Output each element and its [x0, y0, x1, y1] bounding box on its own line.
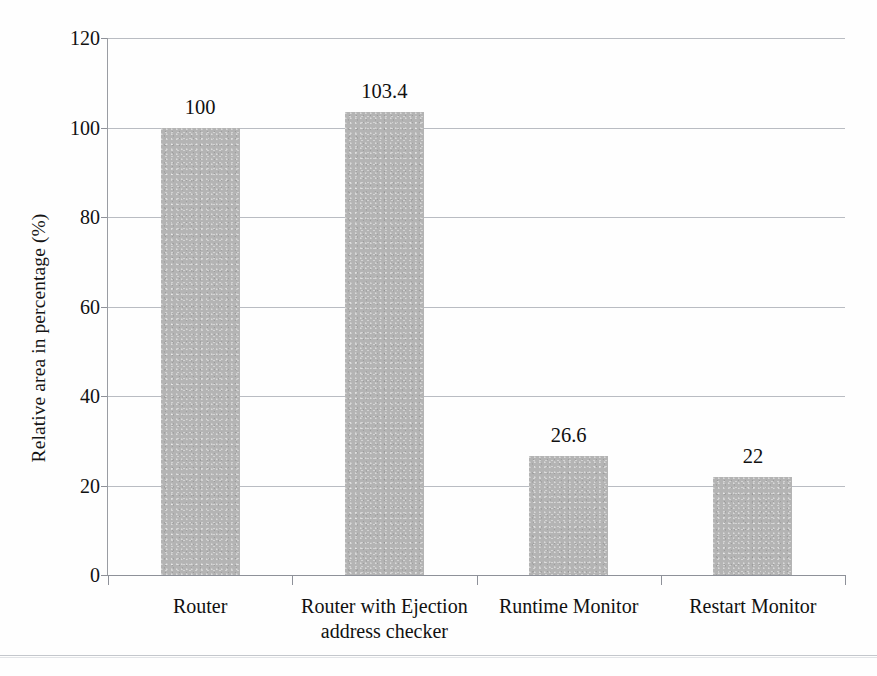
x-category-label-1: Router — [108, 594, 292, 619]
y-tick-label-60: 60 — [48, 297, 100, 317]
bar-1 — [161, 128, 240, 576]
x-category-label-1-line-1: Router — [108, 594, 292, 619]
y-tick-label-120: 120 — [48, 28, 100, 48]
x-category-label-3-line-1: Runtime Monitor — [477, 594, 661, 619]
x-tick-mark-1 — [292, 575, 293, 585]
bar-4 — [713, 477, 792, 575]
y-tick-label-40: 40 — [48, 386, 100, 406]
x-category-label-4-line-1: Restart Monitor — [661, 594, 845, 619]
plot-area — [108, 38, 845, 575]
y-tick-label-80: 80 — [48, 207, 100, 227]
page-divider-rule — [0, 655, 877, 656]
bar-value-label-3: 26.6 — [509, 425, 629, 446]
x-category-label-4: Restart Monitor — [661, 594, 845, 619]
bar-2 — [345, 112, 424, 575]
bar-value-label-2: 103.4 — [324, 81, 444, 102]
page-divider-rule-shadow — [0, 657, 877, 658]
bar-value-label-4: 22 — [693, 446, 813, 467]
x-tick-mark-0 — [108, 575, 109, 585]
x-category-label-2-line-1: Router with Ejection — [292, 594, 476, 619]
x-category-label-3: Runtime Monitor — [477, 594, 661, 619]
x-tick-mark-4 — [845, 575, 846, 585]
bar-3 — [529, 456, 608, 575]
y-tick-label-100: 100 — [48, 118, 100, 138]
x-category-label-2-line-2: address checker — [292, 619, 476, 644]
gridline-120 — [108, 38, 845, 39]
y-tick-label-20: 20 — [48, 476, 100, 496]
y-tick-label-0: 0 — [48, 565, 100, 585]
bar-chart-figure: Relative area in percentage (%) 02040608… — [0, 0, 877, 676]
bar-value-label-1: 100 — [140, 97, 260, 118]
y-axis-tick-labels: 020406080100120 — [42, 0, 100, 676]
y-tick-mark-0 — [101, 575, 108, 576]
x-category-label-2: Router with Ejectionaddress checker — [292, 594, 476, 644]
x-tick-mark-2 — [477, 575, 478, 585]
x-tick-mark-3 — [661, 575, 662, 585]
